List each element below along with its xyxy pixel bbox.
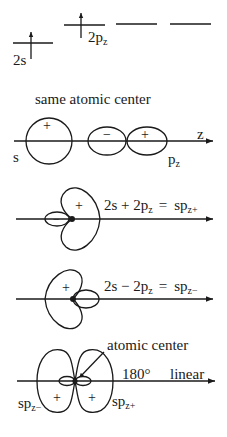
geometry-label: linear bbox=[170, 366, 204, 382]
sp-z-minus-label: spz− bbox=[18, 395, 42, 413]
sp-hybridization-diagram: 2s 2pz same atomic center + − + z s pz +… bbox=[0, 0, 227, 437]
sp-z-plus-label: spz+ bbox=[112, 393, 136, 411]
panel-sp-z-plus: + − 2s + 2pz=spz+ bbox=[16, 188, 213, 250]
same-atomic-center-title: same atomic center bbox=[35, 91, 151, 107]
pz-positive-sign: + bbox=[141, 127, 149, 142]
large-lobe-sign: + bbox=[75, 198, 83, 213]
sp-z-minus-equation: 2s − 2pz=spz− bbox=[104, 278, 198, 296]
atomic-center-pointer-arrow bbox=[79, 352, 104, 378]
left-lobe-sign: + bbox=[53, 390, 61, 405]
2s-label: 2s bbox=[13, 52, 27, 68]
angle-label: 180° bbox=[122, 366, 151, 382]
2pz-label: 2pz bbox=[88, 29, 108, 47]
large-lobe-sign: + bbox=[62, 280, 70, 295]
panel-s-pz-orbitals: same atomic center + − + z s pz bbox=[13, 91, 213, 169]
nucleus-dot bbox=[72, 378, 77, 383]
sp-z-plus-equation: 2s + 2pz=spz+ bbox=[104, 197, 198, 215]
z-axis-label: z bbox=[197, 126, 204, 142]
panel-sp-z-minus: + 2s − 2pz=spz− bbox=[16, 270, 213, 329]
nucleus-dot bbox=[70, 296, 76, 302]
small-lobe-sign: − bbox=[53, 212, 60, 226]
atomic-center-callout: atomic center bbox=[107, 337, 188, 353]
s-sign: + bbox=[43, 118, 51, 133]
panel-linear-sp: atomic center 180° linear + + spz− spz+ bbox=[17, 337, 215, 413]
nucleus-dot bbox=[69, 216, 75, 222]
pz-negative-sign: − bbox=[103, 127, 111, 142]
s-orbital-label: s bbox=[13, 149, 19, 165]
energy-level-diagram: 2s 2pz bbox=[13, 13, 211, 68]
right-lobe-sign: + bbox=[88, 390, 96, 405]
pz-orbital-label: pz bbox=[168, 151, 181, 169]
